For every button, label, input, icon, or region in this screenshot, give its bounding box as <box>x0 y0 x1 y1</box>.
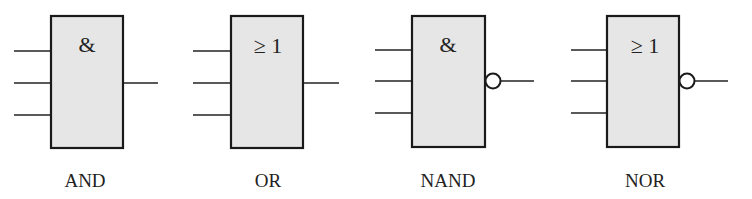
or-symbol: ≥ 1 <box>254 33 283 58</box>
or-label: OR <box>255 170 282 191</box>
gate-nor: ≥ 1 NOR <box>571 16 728 191</box>
logic-gates-diagram: & AND ≥ 1 OR & NAND ≥ 1 NOR <box>0 0 752 199</box>
and-symbol: & <box>78 32 95 57</box>
and-label: AND <box>64 170 105 191</box>
nor-label: NOR <box>625 170 665 191</box>
nand-inversion-bubble <box>486 74 501 89</box>
nand-symbol: & <box>439 32 456 57</box>
gate-and: & AND <box>14 16 158 191</box>
gate-nand: & NAND <box>375 16 534 191</box>
nor-symbol: ≥ 1 <box>631 33 660 58</box>
gate-or: ≥ 1 OR <box>193 16 339 191</box>
nand-label: NAND <box>421 170 476 191</box>
nor-inversion-bubble <box>680 74 695 89</box>
